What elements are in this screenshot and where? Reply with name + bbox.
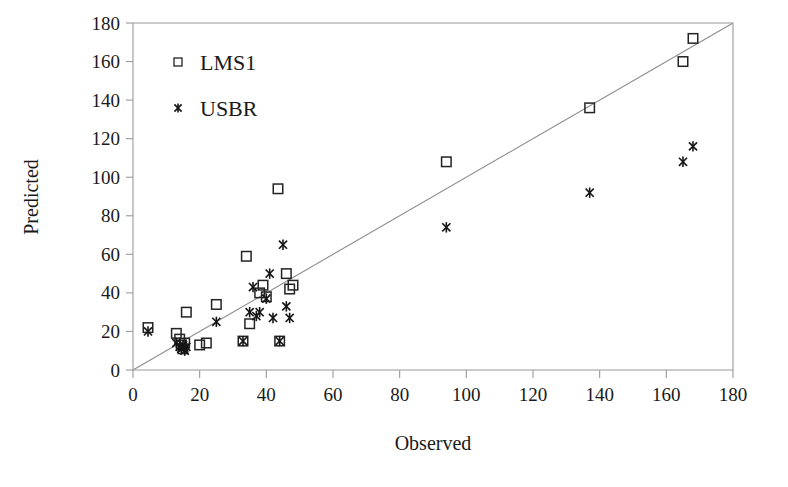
x-tick-label: 160 (652, 384, 681, 405)
x-tick-label: 140 (585, 384, 614, 405)
y-tick-label: 140 (92, 90, 121, 111)
y-tick-label: 80 (101, 205, 120, 226)
x-tick-label: 60 (324, 384, 343, 405)
x-tick-label: 40 (257, 384, 276, 405)
marker-square (688, 34, 698, 44)
marker-star (279, 239, 287, 249)
legend: LMS1USBR (174, 50, 258, 121)
data-series (143, 34, 698, 356)
y-tick-label: 120 (92, 128, 121, 149)
x-tick-label: 80 (390, 384, 409, 405)
y-axis-ticks: 020406080100120140160180 (92, 13, 134, 381)
marker-square (172, 329, 182, 339)
marker-star (276, 336, 284, 346)
legend-label: LMS1 (200, 50, 256, 75)
y-tick-label: 100 (92, 167, 121, 188)
legend-label: USBR (200, 96, 258, 121)
legend-entry-lms1[interactable]: LMS1 (174, 50, 256, 75)
marker-star (282, 301, 290, 311)
series-lms1 (143, 34, 698, 354)
marker-star (689, 141, 697, 151)
y-tick-label: 180 (92, 13, 121, 34)
marker-square (273, 184, 283, 194)
plot-svg: 020406080100120140160180 020406080100120… (0, 0, 788, 487)
y-tick-label: 0 (111, 360, 121, 381)
marker-star (262, 293, 270, 303)
scatter-chart: 020406080100120140160180 020406080100120… (0, 0, 788, 487)
y-tick-label: 60 (101, 244, 120, 265)
marker-square (182, 307, 192, 317)
marker-square (442, 157, 452, 167)
one-to-one-line (133, 23, 733, 370)
x-axis-ticks: 020406080100120140160180 (128, 370, 747, 405)
x-tick-label: 120 (519, 384, 548, 405)
marker-square (212, 300, 222, 310)
marker-star (266, 268, 274, 278)
y-axis-title: Predicted (20, 159, 42, 235)
x-tick-label: 20 (190, 384, 209, 405)
marker-square (285, 284, 295, 294)
marker-square (282, 269, 292, 279)
series-usbr (144, 141, 697, 356)
x-tick-label: 100 (452, 384, 481, 405)
marker-star (679, 157, 687, 167)
marker-star (269, 313, 277, 323)
x-tick-label: 180 (719, 384, 748, 405)
marker-star (586, 187, 594, 197)
marker-square (288, 280, 298, 290)
marker-star (212, 317, 220, 327)
legend-marker-square (174, 58, 182, 66)
marker-star (286, 313, 294, 323)
marker-star (239, 336, 247, 346)
marker-star (174, 103, 181, 112)
marker-star (144, 326, 152, 336)
marker-star (442, 222, 450, 232)
marker-square (678, 57, 688, 67)
y-tick-label: 40 (101, 282, 120, 303)
legend-entry-usbr[interactable]: USBR (174, 96, 257, 121)
y-tick-label: 160 (92, 51, 121, 72)
marker-square (242, 252, 252, 262)
y-tick-label: 20 (101, 321, 120, 342)
x-axis-title: Observed (395, 432, 472, 454)
x-tick-label: 0 (128, 384, 138, 405)
reference-line (133, 23, 733, 370)
marker-star (249, 282, 257, 292)
